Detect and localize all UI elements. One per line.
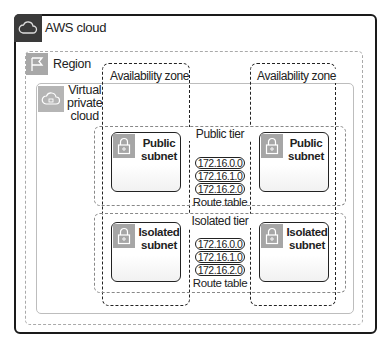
lock-icon (113, 134, 135, 158)
route-table-label: Route table (190, 196, 250, 208)
route-entry: 172.16.2.0 (195, 264, 246, 276)
flag-icon (26, 53, 48, 75)
cloud-icon (14, 14, 42, 42)
public-subnet-1-label: Public subnet (138, 137, 180, 163)
isolated-route-table: 172.16.0.0 172.16.1.0 172.16.2.0 Route t… (190, 238, 250, 289)
isolated-subnet-2-label: Isolated subnet (285, 226, 329, 252)
public-route-table: 172.16.0.0 172.16.1.0 172.16.2.0 Route t… (190, 157, 250, 208)
route-entry: 172.16.1.0 (195, 170, 246, 182)
lock-icon (261, 134, 283, 158)
availability-zone-1-label: Availability zone (110, 69, 189, 83)
route-entry: 172.16.0.0 (195, 238, 246, 250)
route-entry: 172.16.0.0 (195, 157, 246, 169)
lock-icon (261, 224, 283, 248)
region-label: Region (53, 57, 91, 71)
public-subnet-2-label: Public subnet (285, 137, 327, 163)
availability-zone-2-label: Availability zone (257, 69, 336, 83)
cloud-lock-icon (38, 86, 64, 112)
isolated-tier-label: Isolated tier (180, 214, 260, 228)
lock-icon (113, 224, 135, 248)
route-entry: 172.16.2.0 (195, 183, 246, 195)
isolated-subnet-1-label: Isolated subnet (137, 226, 181, 252)
route-table-label: Route table (190, 277, 250, 289)
aws-cloud-label: AWS cloud (45, 20, 106, 35)
vpc-label: Virtual private cloud (67, 84, 102, 123)
public-tier-label: Public tier (180, 127, 260, 141)
route-entry: 172.16.1.0 (195, 251, 246, 263)
